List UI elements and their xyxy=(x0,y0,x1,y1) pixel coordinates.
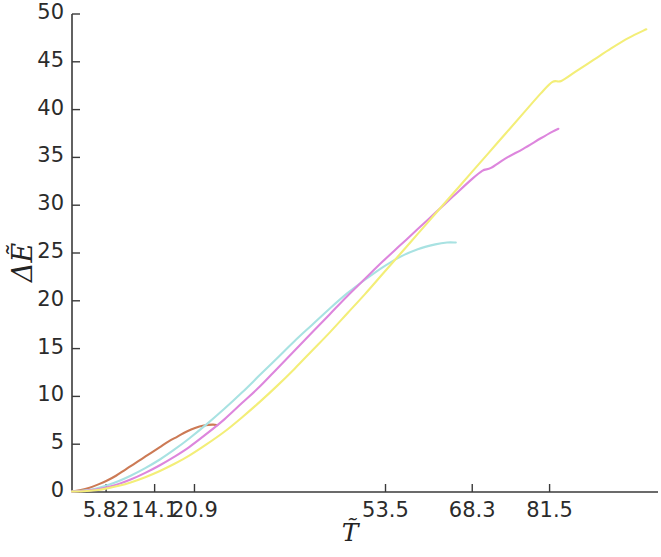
x-tick-label: 81.5 xyxy=(515,498,585,522)
y-tick-label: 25 xyxy=(18,239,64,263)
y-tick-label: 35 xyxy=(18,143,64,167)
y-tick-label: 40 xyxy=(18,96,64,120)
x-tick-label: 68.3 xyxy=(437,498,507,522)
series-yellow-curve xyxy=(72,29,646,491)
y-tick-label: 50 xyxy=(18,0,64,24)
x-tick-label: 20.9 xyxy=(159,498,229,522)
y-tick-label: 20 xyxy=(18,287,64,311)
y-tick-label: 15 xyxy=(18,335,64,359)
plot-area xyxy=(0,0,661,557)
x-tick-label: 53.5 xyxy=(351,498,421,522)
series-magenta-curve xyxy=(72,129,558,492)
chart-figure: ΔẼ T̃ 051015202530354045505.8214.120.95… xyxy=(0,0,661,557)
y-tick-label: 0 xyxy=(18,478,64,502)
y-tick-label: 45 xyxy=(18,48,64,72)
y-tick-label: 10 xyxy=(18,382,64,406)
series-cyan-curve xyxy=(72,242,456,491)
y-tick-label: 30 xyxy=(18,191,64,215)
y-tick-label: 5 xyxy=(18,430,64,454)
